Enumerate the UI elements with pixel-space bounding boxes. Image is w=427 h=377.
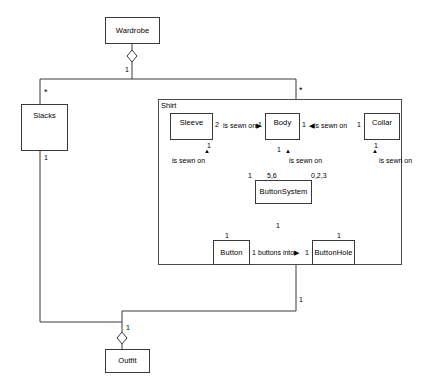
class-button[interactable]: Button (213, 240, 250, 265)
mult-buttonsystem-body-end: 5,6 (267, 172, 277, 179)
mult-wardrobe-end: 1 (125, 66, 129, 73)
class-collar[interactable]: Collar (364, 113, 400, 140)
mult-buttonsystem-collar-end: 0,2,3 (311, 172, 327, 179)
mult-sleeve-lower: 1 (207, 142, 211, 149)
assoc-label-button-buttonhole: buttons into▶ (258, 249, 299, 256)
mult-shirt-bottom: 1 (299, 296, 303, 303)
mult-buttonhole-top: 1 (337, 232, 341, 239)
assoc-body-collar-text: is sewn on (314, 122, 347, 129)
assoc-marker-body-buttonsystem: ▲ (285, 148, 291, 154)
mult-button-top: 1 (225, 232, 229, 239)
mult-button-assoc-target: 1 (305, 249, 309, 256)
mult-slacks-bottom: 1 (44, 154, 48, 161)
class-slacks[interactable]: Slacks (21, 104, 68, 151)
assoc-label-body-buttonsystem: is sewn on (289, 157, 322, 164)
class-collar-label: Collar (365, 119, 399, 127)
assoc-label-collar-buttonsystem: is sewn on (379, 157, 412, 164)
class-sleeve[interactable]: Sleeve (170, 113, 213, 140)
mult-shirt-top: * (299, 86, 303, 95)
assoc-button-buttonhole-arrow: ▶ (294, 249, 299, 256)
class-button-hole-label: ButtonHole (314, 249, 352, 257)
class-outfit-label: Outfit (118, 357, 137, 365)
class-button-hole[interactable]: ButtonHole (312, 240, 355, 265)
aggregation-diamond-outfit (117, 332, 127, 344)
class-body-label: Body (266, 119, 299, 127)
mult-sleeve-body-source: 2 (215, 121, 219, 128)
assoc-sleeve-buttonsystem-text: is sewn on (172, 157, 205, 164)
mult-body-lower: 1 (277, 146, 281, 153)
mult-collar-lower: 1 (374, 142, 378, 149)
uml-class-diagram: Shirt Wardrobe Slacks Outfit Sleeve Body… (0, 0, 427, 377)
mult-slacks-top: * (44, 88, 48, 97)
package-shirt-label: Shirt (161, 101, 176, 110)
mult-button-assoc-source: 1 (252, 249, 256, 256)
aggregation-diamond-wardrobe (127, 50, 137, 62)
class-sleeve-label: Sleeve (171, 119, 212, 127)
mult-outfit-end: 1 (126, 324, 130, 331)
assoc-sleeve-body-text: is sewn on (223, 122, 256, 129)
assoc-label-sleeve-buttonsystem: is sewn on (172, 157, 205, 164)
mult-sleeve-body-target: 1 (258, 121, 262, 128)
class-slacks-label: Slacks (22, 112, 67, 120)
class-button-label: Button (220, 249, 242, 257)
class-button-system[interactable]: ButtonSystem (255, 180, 312, 204)
class-button-system-label: ButtonSystem (260, 188, 308, 196)
assoc-button-buttonhole-text: buttons into (258, 249, 294, 256)
class-body[interactable]: Body (265, 113, 300, 140)
class-wardrobe[interactable]: Wardrobe (105, 17, 160, 44)
mult-buttonsystem-composition: 1 (276, 222, 280, 229)
assoc-label-sleeve-body: is sewn on▶ (223, 122, 261, 129)
mult-buttonsystem-sleeve-end: 1 (248, 172, 252, 179)
assoc-collar-buttonsystem-text: is sewn on (379, 157, 412, 164)
assoc-label-body-collar: ◀is sewn on (309, 122, 347, 129)
class-wardrobe-label: Wardrobe (116, 27, 149, 35)
triangle-icon: ▲ (285, 148, 291, 154)
assoc-body-buttonsystem-text: is sewn on (289, 157, 322, 164)
class-outfit[interactable]: Outfit (105, 349, 150, 373)
mult-body-collar-target: 1 (357, 121, 361, 128)
mult-body-collar-source: 1 (302, 121, 306, 128)
